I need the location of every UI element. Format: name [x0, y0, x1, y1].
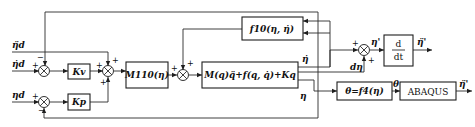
accel-feedforward-wire	[12, 52, 108, 66]
summing-junction-s5	[359, 45, 370, 56]
summing-junction-s4	[178, 70, 189, 81]
block-diagram: Kv Kp M110(η) M(q)q̈+f(q, q̇)+Kq f10(η, …	[0, 0, 475, 127]
signal-eta: η	[300, 91, 307, 101]
f4-block: θ=f4(η)	[337, 82, 392, 100]
sign-s3-bottom: +	[100, 78, 107, 87]
signal-eta-prime: η'	[371, 37, 380, 47]
m110-block: M110(η)	[124, 62, 169, 88]
ddt-numerator: d	[396, 39, 402, 49]
sign-s5-bottom: +	[368, 56, 375, 65]
plant-dynamics-block: M(q)q̈+f(q, q̇)+Kq	[202, 62, 298, 88]
kp-label: Kp	[71, 97, 87, 107]
signal-eta-ddot-prime-abaqus: η̈'	[459, 79, 468, 89]
signal-d-eta: dη	[350, 62, 363, 72]
abaqus-label: ABAQUS	[407, 87, 449, 97]
summing-junction-s1	[39, 66, 50, 77]
sign-s3-top: +	[112, 56, 119, 65]
ddt-denominator: dt	[394, 52, 404, 62]
f10-block: f10(η, η̇)	[242, 17, 303, 40]
signal-eta-ddot-prime-ddt: η̈'	[417, 37, 426, 47]
input-eta-d: ηd	[12, 90, 26, 100]
signal-theta: θ	[393, 79, 399, 89]
sign-s4-left: +	[171, 64, 178, 73]
m110-label: M110(η)	[124, 70, 169, 80]
kv-label: Kv	[71, 67, 86, 77]
input-eta-dd: η̈d	[12, 40, 26, 50]
sign-s2-bottom: −	[38, 106, 45, 115]
sign-s1-left: +	[32, 61, 39, 70]
abaqus-block: ABAQUS	[400, 82, 456, 100]
sign-s2-left: +	[32, 92, 39, 101]
derivative-block: d dt	[384, 35, 413, 66]
sign-s4-top: +	[187, 59, 194, 68]
kv-block: Kv	[68, 64, 90, 79]
f4-label: θ=f4(η)	[345, 86, 384, 96]
sign-s5-left: +	[352, 39, 359, 48]
signal-eta-dot: η̇	[302, 54, 309, 64]
plant-dynamics-label: M(q)q̈+f(q, q̇)+Kq	[203, 70, 296, 81]
summing-junction-s3	[103, 66, 114, 77]
eta-to-f4-wire	[298, 80, 337, 91]
sign-s3-left: +	[96, 61, 103, 70]
f10-label: f10(η, η̇)	[249, 24, 294, 35]
kp-block: Kp	[68, 94, 90, 110]
input-eta-d-dot: η̇d	[12, 59, 26, 69]
